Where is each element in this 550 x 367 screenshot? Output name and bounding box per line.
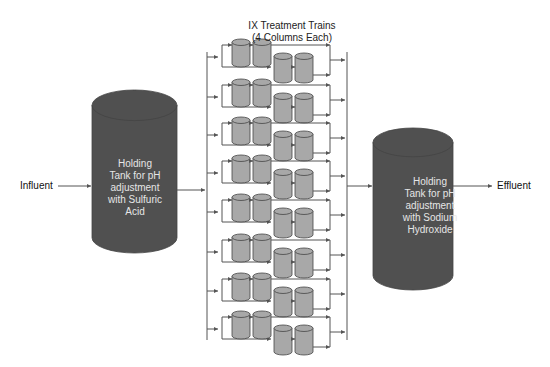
train-2-column-4 [295,93,313,123]
train-8-column-1 [232,311,250,339]
train-3-column-1 [232,117,250,145]
train-5-column-3 [274,208,292,238]
train-4-column-2 [253,155,271,183]
train-7-column-1 [232,273,250,301]
train-3-column-2 [253,117,271,145]
train-4-column-4 [295,169,313,199]
train-6-column-2 [253,234,271,262]
train-5-column-2 [253,194,271,222]
train-1-column-4 [295,53,313,83]
train-5-column-4 [295,208,313,238]
process-diagram: IX Treatment Trains (4 Columns Each) Inf… [0,0,550,367]
left-tank-label: HoldingTank for pHadjustmentwith Sulfuri… [92,158,178,218]
right-tank-label: HoldingTank for pHadjustmentwith SodiumH… [385,176,475,236]
train-2-column-2 [253,79,271,107]
train-1-column-3 [274,53,292,83]
train-3-column-4 [295,131,313,161]
train-2-column-1 [232,79,250,107]
train-6-column-1 [232,234,250,262]
effluent-label: Effluent [497,180,531,191]
train-5-column-1 [232,194,250,222]
train-6-column-4 [295,248,313,278]
train-3-column-3 [274,131,292,161]
train-8-column-4 [295,325,313,355]
ix-trains-title: IX Treatment Trains (4 Columns Each) [232,20,352,44]
train-4-column-3 [274,169,292,199]
train-8-column-3 [274,325,292,355]
train-6-column-3 [274,248,292,278]
train-7-column-3 [274,287,292,317]
train-2-column-3 [274,93,292,123]
train-4-column-1 [232,155,250,183]
train-7-column-4 [295,287,313,317]
train-8-column-2 [253,311,271,339]
train-7-column-2 [253,273,271,301]
influent-label: Influent [20,180,53,191]
